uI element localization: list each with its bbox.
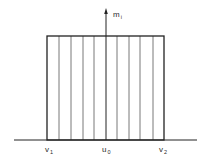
arrow-up-icon [104, 8, 108, 14]
x-label-u0-subscript: 0 [107, 149, 110, 155]
y-axis-label-subscript: i [121, 14, 122, 20]
x-label-v2-subscript: 2 [164, 149, 167, 155]
x-label-u0: u0 [102, 146, 111, 154]
y-axis-label-main: m [113, 10, 120, 19]
distribution-diagram [0, 0, 208, 163]
x-label-v1-main: v [45, 145, 49, 154]
x-label-v1: v1 [45, 146, 53, 154]
x-label-u0-main: u [102, 145, 106, 154]
x-label-v1-subscript: 1 [50, 149, 53, 155]
x-label-v2-main: v [159, 145, 163, 154]
x-label-v2: v2 [159, 146, 167, 154]
y-axis-label: mi [113, 11, 122, 19]
